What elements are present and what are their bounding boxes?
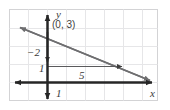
x-axis-label: x [150,88,155,99]
run-tick-label: 1 [56,88,62,99]
figure-canvas: y x (0, 3) −2 1 5 1 [0,0,170,110]
run-label: 5 [79,70,85,81]
y-intercept-label: (0, 3) [52,20,75,30]
coordinate-plot [0,0,170,110]
rise-tick-label: 1 [39,63,45,74]
rise-label: −2 [27,47,40,58]
